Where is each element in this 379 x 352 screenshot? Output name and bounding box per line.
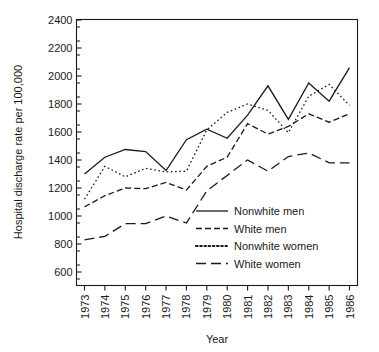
data-series-group [85,68,350,240]
y-tick-label: 1600 [48,126,72,138]
y-axis-title: Hospital discharge rate per 100,000 [12,65,24,239]
x-tick-label: 1981 [242,295,254,319]
x-tick-label: 1978 [180,295,192,319]
x-tick-label: 1986 [344,295,356,319]
x-tick-label: 1973 [79,295,91,319]
x-tick-label: 1979 [201,295,213,319]
x-tick-label: 1974 [99,295,111,319]
x-tick-label: 1976 [140,295,152,319]
x-tick-label: 1982 [262,295,274,319]
x-tick-label: 1975 [119,295,131,319]
y-tick-label: 2200 [48,42,72,54]
y-tick-label: 1200 [48,182,72,194]
x-tick-label: 1977 [160,295,172,319]
y-tick-label: 1800 [48,98,72,110]
y-tick-label: 1000 [48,210,72,222]
x-axis-title: Year [206,333,229,345]
y-tick-label: 1400 [48,154,72,166]
x-tick-label: 1985 [323,295,335,319]
x-axis: 1973197419751976197719781979198019811982… [79,286,356,319]
y-tick-label: 600 [54,266,72,278]
x-tick-label: 1983 [282,295,294,319]
legend-label-white-women: White women [234,258,301,270]
x-tick-label: 1980 [221,295,233,319]
line-chart: 24002200200018001600140012001000800600 1… [0,0,379,352]
legend-label-nonwhite-men: Nonwhite men [234,205,304,217]
series-line-white-men [85,114,350,207]
series-line-white-women [85,153,350,240]
chart-legend: Nonwhite menWhite menNonwhite womenWhite… [196,205,318,270]
x-tick-label: 1984 [303,295,315,319]
series-line-nonwhite-women [85,84,350,199]
chart-figure: 24002200200018001600140012001000800600 1… [0,0,379,352]
y-tick-label: 800 [54,238,72,250]
y-tick-label: 2400 [48,14,72,26]
series-line-nonwhite-men [85,68,350,174]
y-tick-label: 2000 [48,70,72,82]
legend-label-nonwhite-women: Nonwhite women [234,240,318,252]
legend-label-white-men: White men [234,223,287,235]
